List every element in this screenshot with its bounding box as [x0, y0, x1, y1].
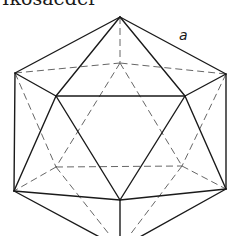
visible-edge-LL-FB [14, 191, 120, 200]
hidden-edge-UL-BL [15, 73, 56, 167]
hidden-edge-BL-B [56, 167, 120, 236]
hidden-edge-BR-LR [182, 166, 226, 189]
visible-edge-FR-UR [185, 74, 226, 96]
hidden-edge-BU-BL [56, 63, 120, 167]
hidden-edge-UR-BR [182, 74, 226, 166]
visible-edge-T-FR [120, 17, 185, 96]
visible-edge-UL-LL [14, 73, 15, 191]
visible-edge-LR-B [120, 189, 226, 236]
hidden-edge-BL-BR [56, 166, 182, 167]
visible-edge-FL-LL [14, 96, 56, 191]
hidden-edge-UR-BU [120, 63, 226, 74]
visible-edge-LL-B [14, 191, 120, 236]
edge-length-label: a [179, 27, 188, 43]
visible-edge-UL-FL [15, 73, 56, 96]
visible-edge-FR-LR [185, 96, 226, 189]
hidden-edge-BR-B [120, 166, 182, 236]
icosahedron-figure: a [0, 0, 232, 236]
hidden-edge-BL-LL [14, 167, 56, 191]
visible-edge-FR-FB [120, 96, 185, 200]
visible-edges [14, 17, 226, 236]
visible-edge-FL-FB [56, 96, 120, 200]
visible-edge-T-UR [120, 17, 226, 74]
visible-edge-T-FL [56, 17, 120, 96]
